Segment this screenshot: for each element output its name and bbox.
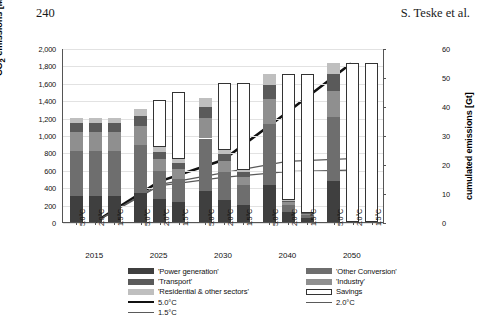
- bar-2030-5-0°C: [199, 48, 212, 222]
- y-axis-tick-label: 1,800: [22, 62, 56, 71]
- legend-label: Savings: [336, 287, 362, 296]
- legend-label: 'Residential & other sectors': [158, 287, 249, 296]
- y2-axis-tick-label: 10: [442, 190, 462, 199]
- y2-axis-tick-label: 20: [442, 161, 462, 170]
- bar-2025-5-0°C: [134, 48, 147, 222]
- bar-segment: [134, 126, 147, 145]
- legend-line-icon: [128, 301, 154, 303]
- savings-box: [172, 92, 185, 160]
- bar-segment: [172, 163, 185, 169]
- x-axis-year-label: 2050: [332, 251, 372, 260]
- y2-tick-mark: [383, 136, 386, 137]
- legend-line-icon: [128, 312, 154, 313]
- y-axis-tick-label: 200: [22, 202, 56, 211]
- bar-segment: [199, 139, 212, 191]
- gridline: [63, 223, 383, 224]
- y2-axis-tick-label: 50: [442, 74, 462, 83]
- x-axis-year-label: 2025: [139, 251, 179, 260]
- bar-segment: [153, 159, 166, 171]
- y2-tick-mark: [383, 78, 386, 79]
- bar-segment: [237, 170, 250, 173]
- bar-2040-2-0°C: [282, 48, 295, 222]
- x-axis-scenario-label: 1.5°C: [374, 209, 383, 226]
- y2-tick-mark: [383, 107, 386, 108]
- bar-segment: [327, 63, 340, 74]
- legend-item: 'Power generation': [128, 266, 249, 276]
- legend-line-icon: [306, 302, 332, 303]
- y2-tick-mark: [383, 49, 386, 50]
- bar-segment: [263, 74, 276, 84]
- y2-axis-tick-label: 40: [442, 103, 462, 112]
- y-axis-tick-label: 800: [22, 149, 56, 158]
- bar-2050-1-5°C: [365, 48, 378, 222]
- x-tick-mark: [353, 222, 354, 225]
- x-axis-scenario-label: 2.0°C: [355, 209, 364, 226]
- legend-label: 'Other Conversion': [336, 267, 397, 276]
- bar-segment: [327, 91, 340, 117]
- bar-segment: [153, 147, 166, 151]
- bar-2050-2-0°C: [346, 48, 359, 222]
- page-number: 240: [36, 6, 55, 21]
- plot-area: [62, 49, 384, 223]
- savings-box: [218, 83, 231, 150]
- legend-left-column: 'Power generation''Transport''Residentia…: [128, 266, 249, 318]
- legend-box-icon: [306, 289, 332, 295]
- y2-tick-mark: [383, 223, 386, 224]
- chart-legend: 'Power generation''Transport''Residentia…: [0, 266, 484, 324]
- savings-box: [282, 74, 295, 200]
- x-axis-scenario-label: 2.0°C: [162, 209, 171, 226]
- bar-2015-1-5°C: [108, 48, 121, 222]
- x-tick-mark: [372, 222, 373, 225]
- x-tick-mark: [141, 222, 142, 225]
- y-axis-tick-label: 400: [22, 184, 56, 193]
- y-axis-tick-label: 1,000: [22, 132, 56, 141]
- x-axis-scenario-label: 1.5°C: [116, 209, 125, 226]
- x-axis-year-label: 2040: [267, 251, 307, 260]
- x-tick-mark: [205, 222, 206, 225]
- legend-item: 5.0°C: [128, 297, 249, 307]
- figure-page: 240 S. Teske et al. CO2 emissions [Mt/yr…: [0, 0, 484, 328]
- legend-item: 1.5°C: [128, 308, 249, 318]
- bar-segment: [237, 172, 250, 176]
- legend-item: 'Transport': [128, 276, 249, 286]
- bar-segment: [108, 123, 121, 132]
- legend-label: 5.0°C: [158, 298, 177, 307]
- y-axis-tick-label: 1,200: [22, 115, 56, 124]
- legend-label: 'Transport': [158, 277, 192, 286]
- x-axis-scenario-label: 5.0°C: [78, 209, 87, 226]
- bar-segment: [218, 161, 231, 172]
- bar-segment: [153, 171, 166, 200]
- y-axis-tick-label: 1,400: [22, 97, 56, 106]
- y2-tick-mark: [383, 194, 386, 195]
- bar-2050-5-0°C: [327, 48, 340, 222]
- x-tick-mark: [224, 222, 225, 225]
- y2-axis-title: cumulated emissions [Gt]: [464, 30, 474, 200]
- x-axis-scenario-label: 1.5°C: [309, 209, 318, 226]
- legend-item: 'Other Conversion': [306, 266, 397, 276]
- x-axis-scenario-label: 5.0°C: [336, 209, 345, 226]
- legend-swatch-icon: [128, 289, 154, 295]
- legend-right-column: 'Other Conversion''Industry'Savings2.0°C: [306, 266, 397, 308]
- bar-segment: [237, 177, 250, 186]
- bar-segment: [108, 151, 121, 196]
- bar-segment: [172, 169, 185, 179]
- bar-segment: [153, 152, 166, 159]
- bar-segment: [108, 118, 121, 124]
- bar-segment: [327, 117, 340, 181]
- legend-swatch-icon: [306, 268, 332, 274]
- x-tick-mark: [334, 222, 335, 225]
- x-axis-scenario-label: 2.0°C: [97, 209, 106, 226]
- bar-segment: [134, 145, 147, 194]
- x-axis-year-label: 2015: [74, 251, 114, 260]
- bar-2030-2-0°C: [218, 48, 231, 222]
- legend-label: 'Power generation': [158, 267, 219, 276]
- y-axis-title: CO2 emissions [Mt/yr]: [0, 0, 7, 76]
- y2-axis-tick-label: 0: [442, 219, 462, 228]
- x-tick-mark: [160, 222, 161, 225]
- y-axis-title-text: CO2 emissions [Mt/yr]: [0, 0, 4, 76]
- x-axis-scenario-label: 2.0°C: [290, 209, 299, 226]
- legend-item: 'Residential & other sectors': [128, 287, 249, 297]
- bar-segment: [70, 123, 83, 132]
- x-axis-scenario-label: 5.0°C: [271, 209, 280, 226]
- bar-2040-5-0°C: [263, 48, 276, 222]
